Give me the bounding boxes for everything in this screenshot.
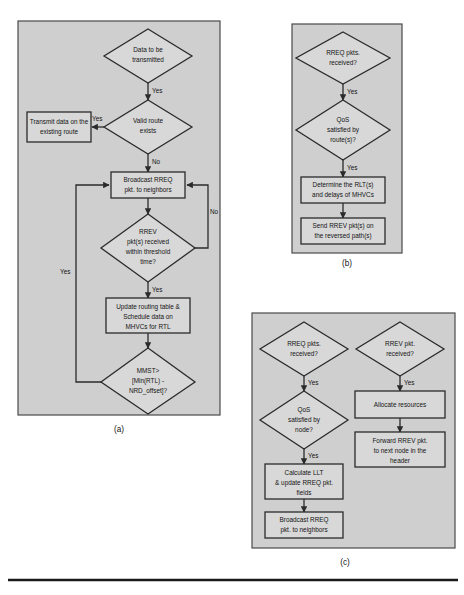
node-a6-line-1: Schedule data on bbox=[123, 313, 173, 320]
node-a6-line-2: MHVCs for RTL bbox=[126, 323, 171, 330]
node-c5-line-1: received? bbox=[386, 350, 414, 357]
node-a5-line-3: time? bbox=[140, 258, 156, 265]
node-c7-line-0: Forward RREV pkt. bbox=[372, 437, 427, 445]
edge-label-c-yes-3: Yes bbox=[404, 379, 414, 386]
node-send-rrev-reversed-path: Send RREV pkt(s) on the reversed path(s) bbox=[301, 218, 385, 244]
node-forward-rrev-next-node: Forward RREV pkt. to next node in the he… bbox=[355, 432, 445, 467]
panel-b: RREQ pkts. received? Yes QoS satisfied b… bbox=[292, 24, 402, 268]
node-c7-line-1: to next node in the bbox=[374, 447, 427, 454]
node-a5-line-0: RREV bbox=[139, 228, 157, 235]
node-c6-line-0: Allocate resources bbox=[374, 401, 427, 408]
edge-label-a-yes-4: Yes bbox=[60, 268, 70, 275]
node-b4-line-1: the reversed path(s) bbox=[314, 232, 371, 240]
node-b1-line-0: RREQ pkts. bbox=[326, 49, 360, 57]
node-transmit-data-existing-route: Transmit data on the existing route bbox=[27, 112, 91, 142]
panel-a-caption: (a) bbox=[114, 425, 124, 434]
node-c1-line-1: received? bbox=[290, 350, 318, 357]
node-a1-line-0: Data to be bbox=[133, 46, 163, 53]
node-a2-line-1: exists bbox=[140, 127, 156, 134]
edge-label-a-yes-2: Yes bbox=[92, 115, 102, 122]
node-c3-line-0: Calculate LLT bbox=[285, 469, 324, 476]
node-update-routing-table: Update routing table & Schedule data on … bbox=[106, 298, 190, 333]
node-a5-line-1: pkt(s) received bbox=[127, 238, 169, 246]
node-determine-rlt-delays: Determine the RLT(s) and delays of MHVCs bbox=[301, 177, 385, 203]
node-c2-line-2: node? bbox=[295, 426, 313, 433]
node-c3-line-2: fields bbox=[297, 489, 312, 496]
edge-label-b-yes-2: Yes bbox=[347, 164, 357, 171]
node-b3-line-1: and delays of MHVCs bbox=[312, 191, 374, 199]
node-a4-line-0: Broadcast RREQ bbox=[123, 176, 172, 184]
edge-label-a-no-1: No bbox=[152, 158, 161, 165]
node-a7-line-1: [Min(RTL) - bbox=[132, 377, 164, 385]
node-a1-line-1: transmitted bbox=[132, 56, 164, 63]
node-a7-line-0: MMST> bbox=[137, 367, 160, 374]
node-broadcast-rreq-a: Broadcast RREQ pkt. to neighbors bbox=[111, 172, 185, 198]
node-b2-line-2: route(s)? bbox=[330, 136, 356, 144]
node-c1-line-0: RREQ pkts. bbox=[287, 340, 321, 348]
node-c4-line-0: Broadcast RREQ bbox=[279, 516, 328, 524]
node-a4-line-1: pkt. to neighbors bbox=[124, 186, 171, 194]
panel-a: Data to be transmitted Yes Valid route e… bbox=[18, 21, 220, 434]
node-calculate-llt-update-rreq: Calculate LLT & update RREQ pkt. fields bbox=[265, 464, 343, 499]
panel-b-caption: (b) bbox=[342, 259, 352, 268]
panel-a-background bbox=[18, 21, 220, 415]
edge-label-c-yes-2: Yes bbox=[308, 452, 318, 459]
node-a5-line-2: within threshold bbox=[125, 248, 171, 255]
node-c4-line-1: pkt. to neighbors bbox=[280, 526, 327, 534]
node-allocate-resources: Allocate resources bbox=[355, 391, 445, 418]
node-b1-line-1: received? bbox=[329, 59, 357, 66]
figure-canvas: Data to be transmitted Yes Valid route e… bbox=[0, 0, 464, 595]
node-a3-line-0: Transmit data on the bbox=[30, 118, 89, 125]
node-c2-line-1: satisfied by bbox=[288, 416, 321, 424]
edge-label-b-yes-1: Yes bbox=[347, 88, 357, 95]
node-a6-line-0: Update routing table & bbox=[116, 303, 180, 311]
node-b3-line-0: Determine the RLT(s) bbox=[313, 181, 374, 189]
node-a3-line-1: existing route bbox=[40, 128, 78, 136]
node-broadcast-rreq-c: Broadcast RREQ pkt. to neighbors bbox=[265, 512, 343, 538]
node-c3-line-1: & update RREQ pkt. bbox=[275, 479, 333, 487]
node-b4-line-0: Send RREV pkt(s) on bbox=[312, 222, 374, 230]
node-b2-line-1: satisfied by bbox=[327, 126, 360, 134]
edge-label-a-yes-3: Yes bbox=[152, 286, 162, 293]
edge-label-a-no-2: No bbox=[210, 208, 219, 215]
node-a7-line-2: NRD_offset]? bbox=[129, 387, 168, 395]
edge-label-a-yes-1: Yes bbox=[152, 87, 162, 94]
panel-c-caption: (c) bbox=[340, 558, 350, 567]
node-a2-line-0: Valid route bbox=[133, 117, 164, 124]
node-c7-line-2: header bbox=[390, 457, 411, 464]
node-c2-line-0: QoS bbox=[298, 406, 311, 414]
edge-label-c-yes-1: Yes bbox=[308, 379, 318, 386]
node-b2-line-0: QoS bbox=[337, 116, 350, 124]
panel-c: RREQ pkts. received? Yes QoS satisfied b… bbox=[252, 313, 455, 567]
node-c5-line-0: RREV pkt. bbox=[385, 340, 415, 348]
